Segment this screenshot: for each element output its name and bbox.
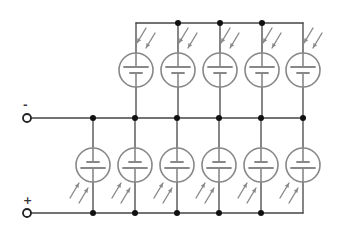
junction-node: [132, 210, 138, 216]
solar-cell-icon: [119, 28, 155, 87]
light-arrow-icon: [121, 188, 130, 203]
solar-cell-icon: [245, 28, 281, 87]
light-arrow-icon: [137, 28, 146, 43]
junction-node: [174, 115, 180, 121]
solar-cell-icon: [161, 28, 197, 87]
junction-node: [217, 20, 223, 26]
solar-cell-icon: [203, 28, 239, 87]
light-arrow-icon: [70, 183, 79, 198]
negative-terminal: [23, 114, 31, 122]
solar-cells: [70, 28, 322, 203]
light-arrow-icon: [163, 188, 172, 203]
solar-cell-icon: [238, 148, 278, 203]
junction-node: [216, 210, 222, 216]
light-arrow-icon: [263, 28, 272, 43]
junction-node: [90, 115, 96, 121]
light-arrow-icon: [304, 28, 313, 43]
light-arrow-icon: [196, 183, 205, 198]
solar-cell-icon: [70, 148, 110, 203]
light-arrow-icon: [179, 28, 188, 43]
solar-cell-icon: [280, 148, 320, 203]
junction-node: [258, 115, 264, 121]
positive-terminal: [23, 209, 31, 217]
light-arrow-icon: [238, 183, 247, 198]
light-arrow-icon: [272, 33, 281, 48]
light-arrow-icon: [313, 33, 322, 48]
light-arrow-icon: [280, 183, 289, 198]
junction-node: [216, 115, 222, 121]
solar-cell-icon: [154, 148, 194, 203]
junction-node: [175, 20, 181, 26]
junction-node: [132, 115, 138, 121]
light-arrow-icon: [205, 188, 214, 203]
junction-node: [300, 115, 306, 121]
solar-cell-icon: [112, 148, 152, 203]
solar-array-diagram: [0, 0, 346, 229]
junction-node: [174, 210, 180, 216]
light-arrow-icon: [221, 28, 230, 43]
light-arrow-icon: [230, 33, 239, 48]
solar-cell-icon: [196, 148, 236, 203]
light-arrow-icon: [188, 33, 197, 48]
junction-node: [90, 210, 96, 216]
light-arrow-icon: [247, 188, 256, 203]
light-arrow-icon: [146, 33, 155, 48]
junction-node: [258, 210, 264, 216]
light-arrow-icon: [289, 188, 298, 203]
light-arrow-icon: [154, 183, 163, 198]
light-arrow-icon: [79, 188, 88, 203]
negative-terminal-label: -: [23, 99, 28, 110]
light-arrow-icon: [112, 183, 121, 198]
solar-cell-icon: [286, 28, 322, 87]
positive-terminal-label: +: [23, 195, 32, 206]
junction-node: [259, 20, 265, 26]
